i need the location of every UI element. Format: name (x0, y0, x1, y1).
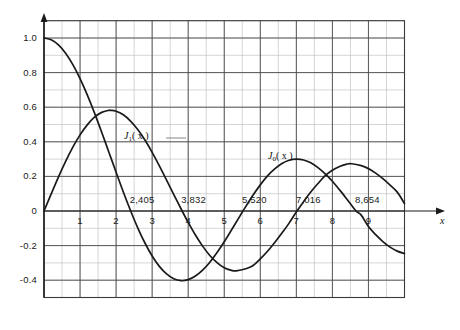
j0-zero-3-label: 8,654 (355, 194, 380, 205)
y-tick-label: 0.6 (0, 101, 37, 112)
y-tick-label: -0.4 (0, 274, 37, 285)
y-tick-label: 0.2 (0, 170, 37, 181)
x-tick-label: 1 (68, 215, 92, 226)
x-tick-label: 2 (104, 215, 128, 226)
j0-zero-1-label: 2,405 (130, 194, 155, 205)
j1-zero-1-label: 3,832 (181, 194, 206, 205)
j1-zero-2-label: 7,016 (296, 194, 321, 205)
series-label-j1: J1( x ) (124, 130, 149, 143)
y-tick-label: 1.0 (0, 32, 37, 43)
chart-canvas (0, 0, 460, 330)
y-tick-label: 0 (0, 205, 37, 216)
x-tick-label: 8 (320, 215, 344, 226)
series-label-j0: J0( x ) (268, 150, 293, 163)
y-tick-label: -0.2 (0, 240, 37, 251)
x-tick-label: 9 (356, 215, 380, 226)
x-tick-label: 5 (212, 215, 236, 226)
bessel-function-chart: 1.00.80.60.40.20-0.2-0.4 123456789 2,405… (0, 0, 460, 330)
y-tick-label: 0.8 (0, 67, 37, 78)
j0-zero-2-label: 5,520 (242, 194, 267, 205)
x-tick-label: 6 (248, 215, 272, 226)
axis-arrowheads (41, 13, 445, 214)
x-tick-label: 3 (140, 215, 164, 226)
x-tick-label: 4 (176, 215, 200, 226)
x-tick-label: 7 (284, 215, 308, 226)
x-axis-name: x (440, 215, 444, 226)
y-tick-label: 0.4 (0, 136, 37, 147)
